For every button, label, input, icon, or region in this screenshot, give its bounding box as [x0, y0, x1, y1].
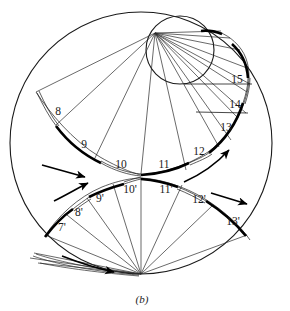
label-11: 11 [158, 158, 169, 170]
label-12: 12 [193, 145, 205, 157]
arrow-upper-right [184, 150, 229, 182]
arrow-upper-left [42, 165, 85, 177]
label-9-prime: 9' [96, 192, 104, 204]
upper-chord-10 [94, 33, 155, 160]
arrow-lower-right [211, 193, 247, 204]
upper-thick-seg-9 [56, 126, 101, 163]
involute-spiral-diagram: 8 9 10 11 12 13 14 15 7' 8' 9' 10' 11' 1… [0, 0, 290, 311]
label-13-prime: 13' [226, 215, 240, 227]
upper-chord-12 [155, 33, 186, 170]
label-8: 8 [55, 105, 61, 117]
direction-arrows [42, 150, 247, 272]
label-10-prime: 10' [123, 183, 137, 195]
upper-chord-11 [141, 33, 155, 174]
figure-container: 8 9 10 11 12 13 14 15 7' 8' 9' 10' 11' 1… [0, 0, 290, 311]
lower-chord-13 [141, 205, 213, 274]
label-11-prime: 11' [159, 183, 172, 195]
label-12-prime: 12' [192, 193, 206, 205]
inner-small-circle [146, 16, 214, 84]
figure-caption: (b) [136, 293, 149, 306]
lower-chord-7 [45, 235, 141, 274]
lower-chord-14 [141, 235, 247, 274]
lower-chord-10 [113, 184, 141, 274]
upper-spiral-guide-path [36, 31, 249, 175]
label-7-prime: 7' [58, 221, 66, 233]
label-8-prime: 8' [75, 206, 83, 218]
lower-labels: 7' 8' 9' 10' 11' 12' 13' [58, 183, 240, 233]
label-10: 10 [115, 158, 127, 170]
lower-chord-9 [87, 198, 141, 274]
arrow-lower-left [54, 183, 88, 201]
upper-spiral-thick-segments [56, 31, 248, 175]
upper-spiral-guide [36, 31, 249, 175]
upper-chord-fan [36, 31, 247, 174]
upper-chord-14 [155, 33, 238, 118]
upper-chord-8 [36, 33, 155, 92]
label-9: 9 [81, 138, 87, 150]
label-15: 15 [231, 73, 243, 85]
upper-labels: 8 9 10 11 12 13 14 15 [55, 73, 243, 170]
label-14: 14 [229, 98, 241, 110]
inner-small-circle-group [146, 16, 214, 84]
lower-chord-12 [141, 185, 182, 274]
upper-chord-9 [56, 33, 155, 125]
label-13: 13 [220, 121, 232, 133]
